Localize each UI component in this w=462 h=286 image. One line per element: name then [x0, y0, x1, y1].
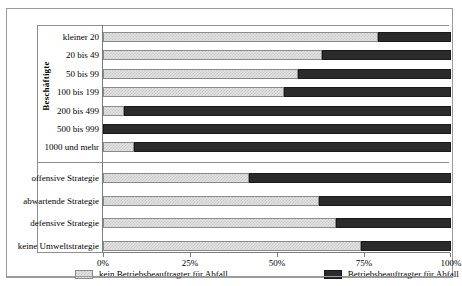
bar-row-label: defensive Strategie	[30, 218, 99, 228]
bar-row: keine Umweltstrategie	[103, 241, 451, 251]
x-axis-tick	[364, 253, 365, 257]
bar-segment-officer	[319, 196, 451, 206]
bar-segment-officer	[298, 69, 451, 79]
chart-legend: kein Betriebsbeauftragter für Abfall Bet…	[37, 267, 449, 281]
bar-row: defensive Strategie	[103, 218, 451, 228]
legend-swatch-light	[75, 270, 93, 279]
bar-row: 20 bis 49	[103, 50, 451, 60]
bar-segment-no-officer	[103, 142, 134, 152]
legend-label-no-officer: kein Betriebsbeauftragter für Abfall	[99, 269, 228, 279]
legend-swatch-dark	[324, 270, 342, 279]
bar-row-label: 500 bis 999	[57, 124, 99, 134]
bar-row: 200 bis 499	[103, 106, 451, 116]
bar-segment-no-officer	[103, 50, 322, 60]
bar-segment-officer	[124, 106, 451, 116]
plot-area: kleiner 2020 bis 4950 bis 99100 bis 1992…	[102, 25, 450, 253]
bar-segment-no-officer	[103, 87, 284, 97]
bar-segment-no-officer	[103, 69, 298, 79]
bar-row-label: 50 bis 99	[66, 69, 99, 79]
x-axis-tick	[277, 253, 278, 257]
bar-row-label: offensive Strategie	[31, 173, 99, 183]
bar-segment-no-officer	[103, 196, 319, 206]
bar-row: 1000 und mehr	[103, 142, 451, 152]
x-axis-tick	[103, 253, 104, 257]
bar-segment-officer	[284, 87, 451, 97]
bar-segment-officer	[249, 173, 451, 183]
bar-segment-officer	[322, 50, 451, 60]
y-axis-title-label: Beschäftigte	[41, 61, 51, 110]
bar-segment-officer	[134, 142, 451, 152]
x-axis-tick	[190, 253, 191, 257]
bar-row: 500 bis 999	[103, 124, 451, 134]
bar-segment-no-officer	[103, 241, 361, 251]
legend-item-officer: Betriebsbeauftragter für Abfall	[324, 269, 459, 279]
bar-row: abwartende Strategie	[103, 196, 451, 206]
bar-row: 50 bis 99	[103, 69, 451, 79]
bar-segment-officer	[103, 124, 451, 134]
bar-segment-no-officer	[103, 218, 336, 228]
bar-row: 100 bis 199	[103, 87, 451, 97]
bar-row-label: 100 bis 199	[57, 87, 99, 97]
bar-row-label: 20 bis 49	[66, 50, 99, 60]
x-axis-tick	[450, 253, 451, 257]
bar-row-label: keine Umweltstrategie	[18, 241, 99, 251]
legend-item-no-officer: kein Betriebsbeauftragter für Abfall	[75, 269, 228, 279]
bar-segment-officer	[336, 218, 451, 228]
legend-label-officer: Betriebsbeauftragter für Abfall	[348, 269, 459, 279]
bottom-rule	[6, 276, 453, 277]
bar-row-label: 200 bis 499	[57, 106, 99, 116]
chart-frame: Beschäftigte kleiner 2020 bis 4950 bis 9…	[6, 8, 453, 278]
bar-row: offensive Strategie	[103, 173, 451, 183]
bar-segment-no-officer	[103, 173, 249, 183]
bar-segment-officer	[361, 241, 451, 251]
y-axis-title: Beschäftigte	[37, 25, 55, 147]
bar-row-label: 1000 und mehr	[45, 142, 100, 152]
bar-row-label: kleiner 20	[63, 32, 99, 42]
bar-segment-officer	[378, 32, 451, 42]
bar-segment-no-officer	[103, 32, 378, 42]
bar-row: kleiner 20	[103, 32, 451, 42]
bar-row-label: abwartende Strategie	[23, 196, 99, 206]
bar-segment-no-officer	[103, 106, 124, 116]
